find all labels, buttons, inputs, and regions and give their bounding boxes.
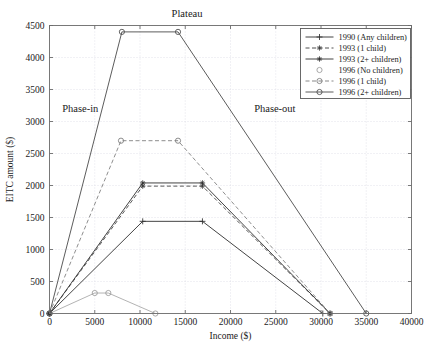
eitc-line-chart: 0500010000150002000025000300003500040000… xyxy=(0,0,434,353)
x-tick-label: 15000 xyxy=(173,317,197,327)
annotation-plateau: Plateau xyxy=(172,8,204,19)
x-tick-label: 40000 xyxy=(400,317,424,327)
legend-label: 1993 (2+ children) xyxy=(339,55,402,64)
y-tick-label: 3500 xyxy=(26,85,45,95)
eitc-chart-figure: 0500010000150002000025000300003500040000… xyxy=(0,0,434,353)
y-tick-label: 2500 xyxy=(26,149,45,159)
series-5 xyxy=(47,138,333,316)
y-tick-label: 500 xyxy=(30,277,45,287)
series-line xyxy=(50,141,331,314)
x-tick-label: 30000 xyxy=(309,317,333,327)
legend-label: 1996 (No children) xyxy=(339,66,403,75)
series-line xyxy=(50,183,331,314)
x-tick-label: 35000 xyxy=(354,317,378,327)
series-line xyxy=(50,293,156,313)
x-tick-label: 0 xyxy=(47,317,52,327)
y-tick-label: 4000 xyxy=(26,53,45,63)
legend-label: 1996 (1 child) xyxy=(339,77,387,86)
legend-label: 1993 (1 child) xyxy=(339,44,387,53)
y-tick-label: 0 xyxy=(40,309,45,319)
y-tick-label: 1000 xyxy=(26,245,45,255)
y-tick-label: 4500 xyxy=(26,21,45,31)
y-tick-label: 1500 xyxy=(26,213,45,223)
legend-label: 1996 (2+ children) xyxy=(339,88,402,97)
y-axis-title: EITC amount ($) xyxy=(5,137,16,202)
annotation-phase-out: Phase-out xyxy=(254,103,295,114)
x-tick-label: 25000 xyxy=(264,317,288,327)
legend-label: 1990 (Any children) xyxy=(339,33,408,42)
series-line xyxy=(50,221,323,313)
x-axis-title: Income ($) xyxy=(210,331,252,342)
x-tick-label: 5000 xyxy=(85,317,104,327)
series-3 xyxy=(47,180,333,316)
x-tick-label: 10000 xyxy=(128,317,152,327)
y-tick-label: 3000 xyxy=(26,117,45,127)
annotation-phase-in: Phase-in xyxy=(62,103,99,114)
y-tick-label: 2000 xyxy=(26,181,45,191)
x-tick-label: 20000 xyxy=(219,317,243,327)
